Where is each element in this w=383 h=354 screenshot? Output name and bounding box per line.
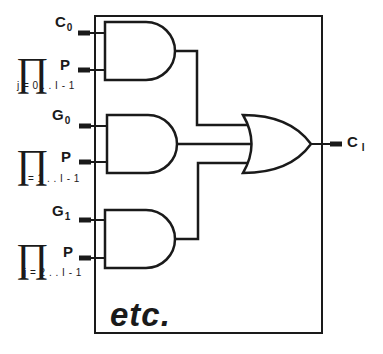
interconnect-wires [175, 51, 252, 239]
product-label-p-2: P [61, 148, 71, 165]
input-label-c0: C0 [55, 13, 72, 30]
and-gate-1 [105, 22, 175, 80]
or-gate [243, 115, 311, 173]
product-label-p-1: P [60, 56, 70, 73]
input-pins [78, 33, 107, 258]
and-gate-3 [105, 210, 175, 268]
and-gate-2 [107, 115, 177, 173]
product-label-p-3: P [63, 243, 73, 260]
block-boundary [95, 16, 322, 333]
continuation-label: etc. [110, 296, 171, 334]
output-label-ci: CI [347, 133, 365, 150]
input-label-g0: G0 [52, 106, 70, 123]
input-label-g1: G1 [52, 202, 70, 219]
product-range-3: j = 2 . . I - 1 [24, 267, 82, 278]
product-range-1: j = 0 . . I - 1 [17, 80, 75, 91]
product-range-2: j = 1 . . I - 1 [22, 173, 80, 184]
